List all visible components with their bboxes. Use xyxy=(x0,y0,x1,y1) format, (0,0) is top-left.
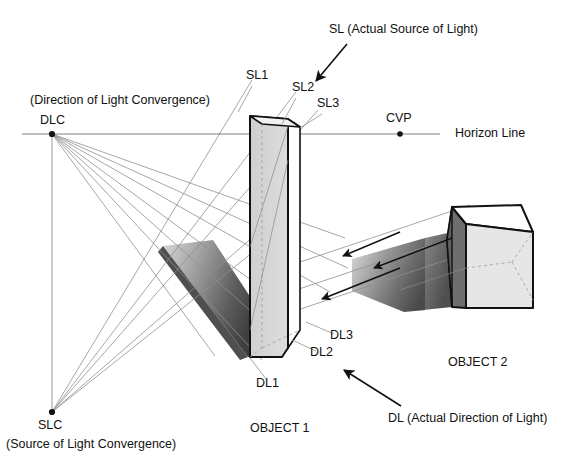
label-object2: OBJECT 2 xyxy=(448,355,508,369)
slc-point-marker xyxy=(49,409,55,415)
label-dl3: DL3 xyxy=(330,328,353,342)
label-dlc-caption: (Direction of Light Convergence) xyxy=(30,93,210,107)
label-sl2: SL2 xyxy=(292,80,314,94)
dlc-point-marker xyxy=(49,131,55,137)
label-dl2: DL2 xyxy=(310,345,333,359)
object1-solid xyxy=(250,116,300,357)
label-cvp: CVP xyxy=(386,111,412,125)
label-dl-actual-direction-of-light: DL (Actual Direction of Light) xyxy=(388,411,547,425)
label-slc-caption: (Source of Light Convergence) xyxy=(6,437,176,451)
label-dlc: DLC xyxy=(40,113,65,127)
label-horizon-line: Horizon Line xyxy=(455,126,525,140)
label-slc: SLC xyxy=(38,418,62,432)
sl-callout-arrow xyxy=(316,44,347,81)
dl-callout-arrow xyxy=(344,370,401,406)
cvp-point-marker xyxy=(397,131,403,137)
label-sl1: SL1 xyxy=(246,68,268,82)
diagram-canvas: SL (Actual Source of Light) SL1 SL2 SL3 … xyxy=(0,0,574,465)
label-sl-actual-source-of-light: SL (Actual Source of Light) xyxy=(329,22,478,36)
label-sl3: SL3 xyxy=(317,96,339,110)
diagram-svg xyxy=(0,0,574,465)
label-dl1: DL1 xyxy=(256,376,279,390)
label-object1: OBJECT 1 xyxy=(250,421,310,435)
